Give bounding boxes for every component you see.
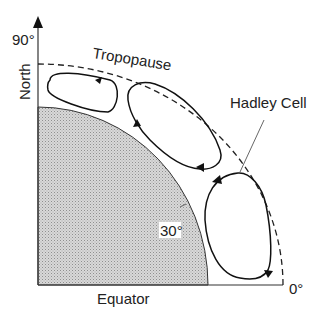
latitude-30-label: 30° [160,222,183,239]
middle-cell-arrow-left-icon [196,163,204,172]
earth-surface [38,107,208,285]
north-axis-label: North [16,63,33,100]
equator-label: Equator [97,290,150,307]
hadley-cell-loop [205,173,271,279]
latitude-90-label: 90° [12,31,35,48]
latitude-0-label: 0° [289,280,303,297]
hadley-cell-pointer [240,120,264,172]
hadley-cell-label: Hadley Cell [230,94,307,111]
polar-cell-arrow-icon [95,77,102,84]
polar-cell-loop [48,73,118,112]
axis-arrow-icon [33,16,43,28]
hadley-cell-arrow-left-icon [212,175,222,184]
hadley-cell-diagram: 90° North Tropopause Hadley Cell 30° Equ… [0,0,320,319]
tropopause-label: Tropopause [92,44,173,73]
